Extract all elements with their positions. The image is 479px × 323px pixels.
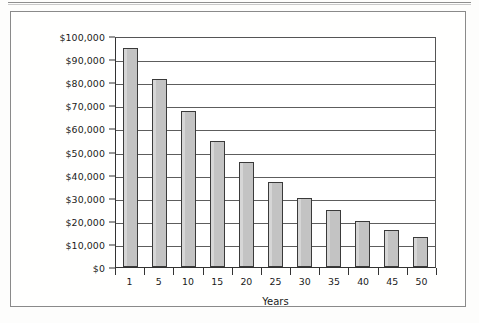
bar: [413, 237, 429, 267]
y-axis-tick-label: $10,000: [39, 239, 105, 250]
x-axis-tick-label: 10: [173, 276, 202, 290]
bar-slot: [348, 38, 377, 267]
y-axis-tick-label: $50,000: [39, 147, 105, 158]
x-axis-tick-label: 40: [349, 276, 378, 290]
bar: [297, 198, 313, 267]
x-axis-ticks: [115, 268, 436, 276]
x-axis-tick: [203, 268, 204, 275]
x-axis-title: Years: [115, 296, 436, 307]
bar-slot: [261, 38, 290, 267]
y-axis-tick-label: $30,000: [39, 193, 105, 204]
y-axis-tick-label: $80,000: [39, 78, 105, 89]
bar-slot: [290, 38, 319, 267]
x-axis-tick: [232, 268, 233, 275]
y-axis-tick-label: $70,000: [39, 101, 105, 112]
chart-figure-frame: $0$10,000$20,000$30,000$40,000$50,000$60…: [10, 11, 466, 307]
bar: [239, 162, 255, 267]
x-axis-tick-label: 45: [378, 276, 407, 290]
y-axis-tick-label: $90,000: [39, 55, 105, 66]
plot-area: [115, 37, 436, 268]
x-axis-tick: [115, 268, 116, 275]
x-axis-tick: [348, 268, 349, 275]
bar-slot: [319, 38, 348, 267]
bar-slot: [174, 38, 203, 267]
bar: [384, 230, 400, 267]
bar-slot: [232, 38, 261, 267]
bar: [355, 221, 371, 267]
x-axis-tick-label: 5: [144, 276, 173, 290]
y-axis-tick-label: $0: [39, 263, 105, 274]
x-axis-tick: [436, 268, 437, 275]
page-canvas: $0$10,000$20,000$30,000$40,000$50,000$60…: [0, 0, 479, 323]
bar: [123, 48, 139, 267]
y-axis-tick-label: $100,000: [39, 32, 105, 43]
x-axis-tick-label: 1: [115, 276, 144, 290]
bar: [181, 111, 197, 267]
x-axis-tick: [407, 268, 408, 275]
x-axis-tick-label: 20: [232, 276, 261, 290]
x-axis-tick: [378, 268, 379, 275]
bar-slot: [377, 38, 406, 267]
bar: [210, 141, 226, 267]
x-axis-tick: [319, 268, 320, 275]
y-axis-tick-label: $20,000: [39, 216, 105, 227]
x-axis-tick: [261, 268, 262, 275]
bar-slot: [406, 38, 435, 267]
bar: [152, 79, 168, 267]
x-axis-labels: 15101520253035404550: [115, 276, 436, 290]
y-axis-tick-label: $60,000: [39, 124, 105, 135]
x-axis-tick-label: 25: [261, 276, 290, 290]
bar-slot: [203, 38, 232, 267]
x-axis-tick-label: 50: [407, 276, 436, 290]
bar-slot: [145, 38, 174, 267]
x-axis-tick-label: 35: [319, 276, 348, 290]
bar: [268, 182, 284, 267]
x-axis-tick-label: 15: [203, 276, 232, 290]
page-top-rule-secondary: [8, 4, 471, 5]
bar-slot: [116, 38, 145, 267]
x-axis-tick-label: 30: [290, 276, 319, 290]
y-axis: $0$10,000$20,000$30,000$40,000$50,000$60…: [11, 12, 115, 306]
y-axis-tick-label: $40,000: [39, 170, 105, 181]
bar-series: [116, 38, 435, 267]
x-axis-tick: [173, 268, 174, 275]
page-top-rule: [8, 2, 471, 3]
bar: [326, 210, 342, 267]
x-axis-tick: [144, 268, 145, 275]
x-axis-tick: [290, 268, 291, 275]
